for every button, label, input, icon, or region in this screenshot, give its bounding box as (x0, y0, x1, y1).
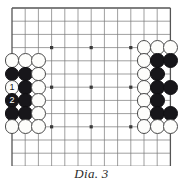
go-board[interactable]: 12 (0, 0, 183, 166)
stone-move-number: 2 (6, 94, 19, 107)
star-point (129, 46, 132, 49)
star-point (129, 125, 132, 128)
stone-move-number: 1 (6, 81, 19, 94)
diagram-caption: Dia. 3 (0, 166, 183, 182)
stone-white[interactable] (163, 119, 178, 134)
star-point (90, 86, 93, 89)
stone-black[interactable] (163, 80, 178, 95)
star-point (50, 46, 53, 49)
star-point (90, 125, 93, 128)
stone-black[interactable] (163, 53, 178, 68)
star-point (90, 46, 93, 49)
star-point (50, 86, 53, 89)
stone-white[interactable] (31, 53, 46, 68)
go-diagram: 12 Dia. 3 (0, 0, 183, 184)
star-point (50, 125, 53, 128)
star-point (129, 86, 132, 89)
stone-white[interactable] (31, 119, 46, 134)
